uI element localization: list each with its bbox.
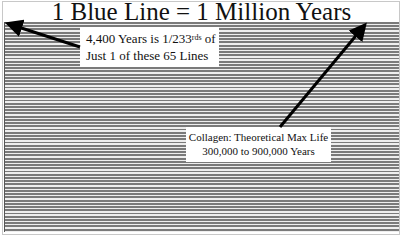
note-1-suffix: of (202, 31, 216, 46)
note-1-superscript: rds (192, 33, 202, 42)
diagram-title: 1 Blue Line = 1 Million Years (4, 0, 399, 22)
note-1-line-2: Just 1 of these 65 Lines (86, 47, 219, 64)
note-4400-years: 4,400 Years is 1/233rds of Just 1 of the… (80, 27, 219, 67)
note-1-line-1: 4,400 Years is 1/233rds of (86, 30, 219, 47)
note-collagen: Collagen: Theoretical Max Life 300,000 t… (186, 127, 331, 162)
note-2-line-1: Collagen: Theoretical Max Life (186, 130, 331, 144)
note-1-prefix: 4,400 Years is 1/233 (86, 31, 192, 46)
note-2-line-2: 300,000 to 900,000 Years (186, 144, 331, 158)
